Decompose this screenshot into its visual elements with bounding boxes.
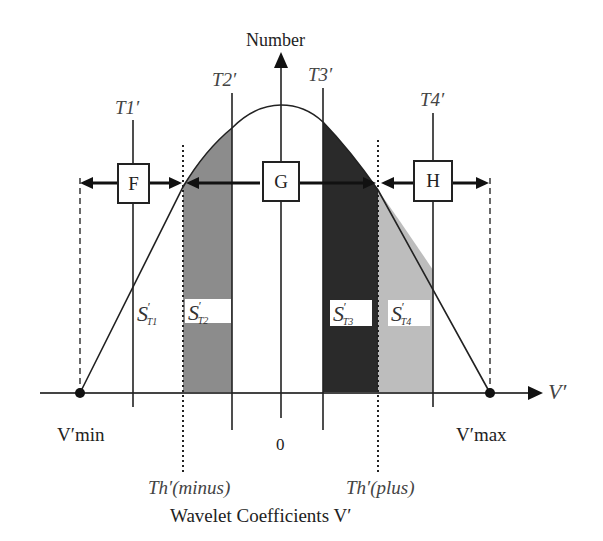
region-h-box: H (413, 160, 453, 202)
vmin-dot (75, 388, 85, 398)
area-s-t1-label: S′T1 (134, 300, 160, 328)
origin-label: 0 (276, 436, 285, 453)
x-axis-symbol: V′ (548, 381, 566, 403)
t1-label: T1′ (115, 98, 139, 117)
t3-label: T3′ (308, 65, 332, 84)
region-g-label: G (274, 171, 288, 193)
area-s-t2-label: S′T2 (185, 299, 231, 323)
x-axis-title: Wavelet Coefficients V′ (170, 506, 351, 525)
region-f-label: F (128, 173, 139, 195)
region-h-label: H (426, 170, 440, 192)
t2-label: T2′ (212, 70, 236, 89)
area-s-t2 (183, 128, 232, 393)
x-axis-arrow-icon (528, 386, 543, 400)
vmin-label: V′min (57, 425, 104, 444)
wavelet-threshold-diagram (0, 0, 603, 541)
area-s-t4-label: S′T4 (388, 300, 430, 326)
area-s-t3 (323, 122, 378, 393)
y-axis-arrow-icon (274, 52, 288, 68)
area-s-t3-label: S′T3 (330, 300, 372, 326)
vmax-dot (485, 388, 495, 398)
threshold-minus-label: Th′(minus) (148, 478, 230, 497)
threshold-plus-label: Th′(plus) (346, 478, 415, 497)
y-axis-label: Number (246, 31, 305, 49)
vmax-label: V′max (456, 425, 507, 444)
area-s-t4 (378, 190, 433, 393)
region-g-box: G (262, 161, 300, 202)
t4-label: T4′ (420, 90, 444, 109)
region-f-box: F (117, 163, 150, 204)
